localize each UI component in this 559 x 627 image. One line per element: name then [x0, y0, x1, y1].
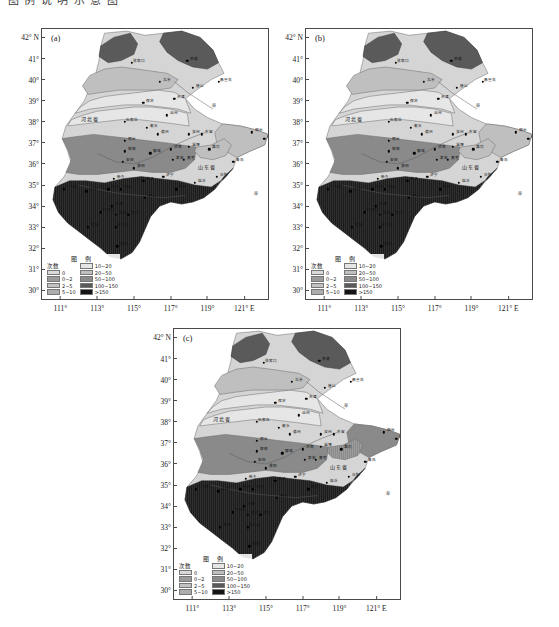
station-label: 南阳: [355, 222, 363, 227]
legend-b: 图 例次数00~22~55~1010~2020~5050~100100~150>…: [309, 254, 384, 296]
legend-label: 50~100: [227, 576, 247, 582]
station-label: 青岛: [236, 156, 244, 161]
station-label: 聊城: [153, 148, 161, 153]
legend-label: >150: [227, 589, 241, 595]
station-label: 衡水: [414, 123, 422, 128]
station-label: 邯郸: [260, 446, 268, 451]
station-label: 莱芜: [187, 154, 195, 159]
legend-column-right: 10~2020~5050~100100~150>150: [344, 263, 382, 295]
legend-column-left: 次数00~22~55~10: [179, 563, 208, 595]
legend-item: >150: [80, 289, 118, 295]
legend-label: 0: [194, 570, 197, 576]
station-label: 商丘: [412, 192, 420, 197]
legend-column-right: 10~2020~5050~100100~150>150: [212, 563, 250, 595]
legend-swatch: [47, 270, 60, 276]
province-label: 山东省: [330, 463, 348, 470]
station-label: 威海: [531, 133, 532, 138]
y-axis-tick-a-35: 35°: [29, 181, 43, 190]
legend-column-left: 次数00~22~55~10: [311, 263, 340, 295]
station-label: 安阳: [390, 156, 398, 161]
x-axis-tick-a-121: 121° E: [234, 299, 255, 313]
station-label: 唐山: [196, 83, 204, 88]
y-axis-tick-b-37: 37°: [293, 138, 307, 147]
legend-label: 50~100: [359, 276, 379, 282]
legend-swatch: [311, 276, 324, 282]
station-label: 菏泽: [410, 175, 418, 180]
legend-title: 图 例: [311, 255, 382, 262]
station-label: 莱芜: [319, 454, 327, 459]
legend-swatch: [212, 576, 225, 582]
legend-label: 100~150: [227, 583, 250, 589]
station-label: 济宁: [166, 171, 174, 176]
station-label: 济南: [438, 144, 446, 149]
y-axis-tick-b-41: 41°: [293, 54, 307, 63]
station-label: 石家庄: [390, 116, 402, 121]
station-label: 开封: [124, 184, 132, 189]
legend-label: 10~20: [227, 563, 244, 569]
station-label: 郑州: [375, 184, 383, 189]
station-label: 天津: [441, 93, 449, 98]
legend-label: 5~10: [194, 589, 208, 595]
legend-swatch: [311, 283, 324, 289]
y-axis-tick-c-31: 31°: [161, 565, 175, 574]
legend-label: 20~50: [227, 570, 244, 576]
legend-item: >150: [212, 589, 250, 595]
station-label: 潍坊: [212, 144, 220, 149]
station-label: 濮阳: [269, 463, 277, 468]
sea-label: 海: [475, 102, 479, 108]
station-label: 威海: [267, 133, 268, 138]
station-label: 秦皇岛: [484, 76, 496, 81]
station-label: 聊城: [417, 148, 425, 153]
station-label: 济南: [174, 144, 182, 149]
legend-swatch: [179, 589, 192, 595]
legend-swatch: [80, 283, 93, 289]
station-label: 潍坊: [344, 444, 352, 449]
legend-swatch: [344, 270, 357, 276]
station-label: 衡水: [282, 423, 290, 428]
station-label: 枣庄: [311, 484, 319, 489]
legend-item: 0~2: [311, 276, 340, 282]
legend-swatch: [311, 289, 324, 295]
station-label: 东营: [337, 429, 345, 434]
station-label: 石家庄: [126, 116, 138, 121]
station-label: 秦皇岛: [352, 376, 364, 381]
legend-label: 2~5: [194, 583, 205, 589]
station-label: 保定: [278, 397, 286, 402]
station-label: 商丘: [280, 492, 288, 497]
province-label: 山东省: [198, 163, 216, 170]
legend-label: 5~10: [62, 289, 76, 295]
x-axis-tick-c-119: 119°: [332, 599, 346, 613]
x-axis-tick-b-117: 117°: [428, 299, 442, 313]
station-label: 三门峡: [197, 484, 209, 489]
legend-item: 0: [47, 270, 76, 276]
station-label: 石家庄: [258, 416, 270, 421]
station-label: 信阳: [252, 541, 260, 546]
legend-label: 0: [326, 270, 329, 276]
x-axis-tick-b-113: 113°: [354, 299, 368, 313]
legend-label: 20~50: [95, 270, 112, 276]
y-axis-tick-a-34: 34°: [29, 202, 43, 211]
station-label: 开封: [256, 484, 264, 489]
sea-label: 海: [385, 490, 389, 496]
legend-label: 0~2: [62, 276, 73, 282]
y-axis-tick-c-35: 35°: [161, 481, 175, 490]
station-label: 驻马店: [249, 522, 261, 527]
station-label: 聊城: [285, 448, 293, 453]
y-axis-tick-b-36: 36°: [293, 159, 307, 168]
x-axis-tick-b-111: 111°: [318, 299, 332, 313]
legend-item: 0~2: [179, 576, 208, 582]
station-label: 东营: [469, 129, 477, 134]
legend-label: 5~10: [326, 289, 340, 295]
station-label: 潍坊: [476, 144, 484, 149]
station-label: 张家口: [397, 57, 409, 62]
station-label: 衡水: [150, 123, 158, 128]
legend-columns: 次数00~22~55~1010~2020~5050~100100~150>150: [179, 563, 250, 595]
legend-column-left: 次数00~22~55~10: [47, 263, 76, 295]
legend-swatch: [212, 570, 225, 576]
legend-label: 10~20: [95, 263, 112, 269]
cropped-header-text: 图 例 说 明 示 意 图: [8, 0, 158, 9]
x-axis-tick-c-115: 115°: [259, 599, 273, 613]
legend-swatch: [80, 276, 93, 282]
legend-c: 图 例次数00~22~55~1010~2020~5050~100100~150>…: [177, 554, 252, 596]
station-label: 承德: [322, 355, 330, 360]
